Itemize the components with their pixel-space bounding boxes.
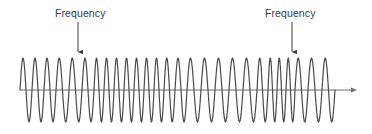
frequency-label-left: Frequency (55, 7, 106, 19)
waveform-diagram-svg (0, 0, 372, 134)
frequency-label-right: Frequency (265, 7, 316, 19)
frequency-waveform-figure: Frequency Frequency (0, 0, 372, 134)
